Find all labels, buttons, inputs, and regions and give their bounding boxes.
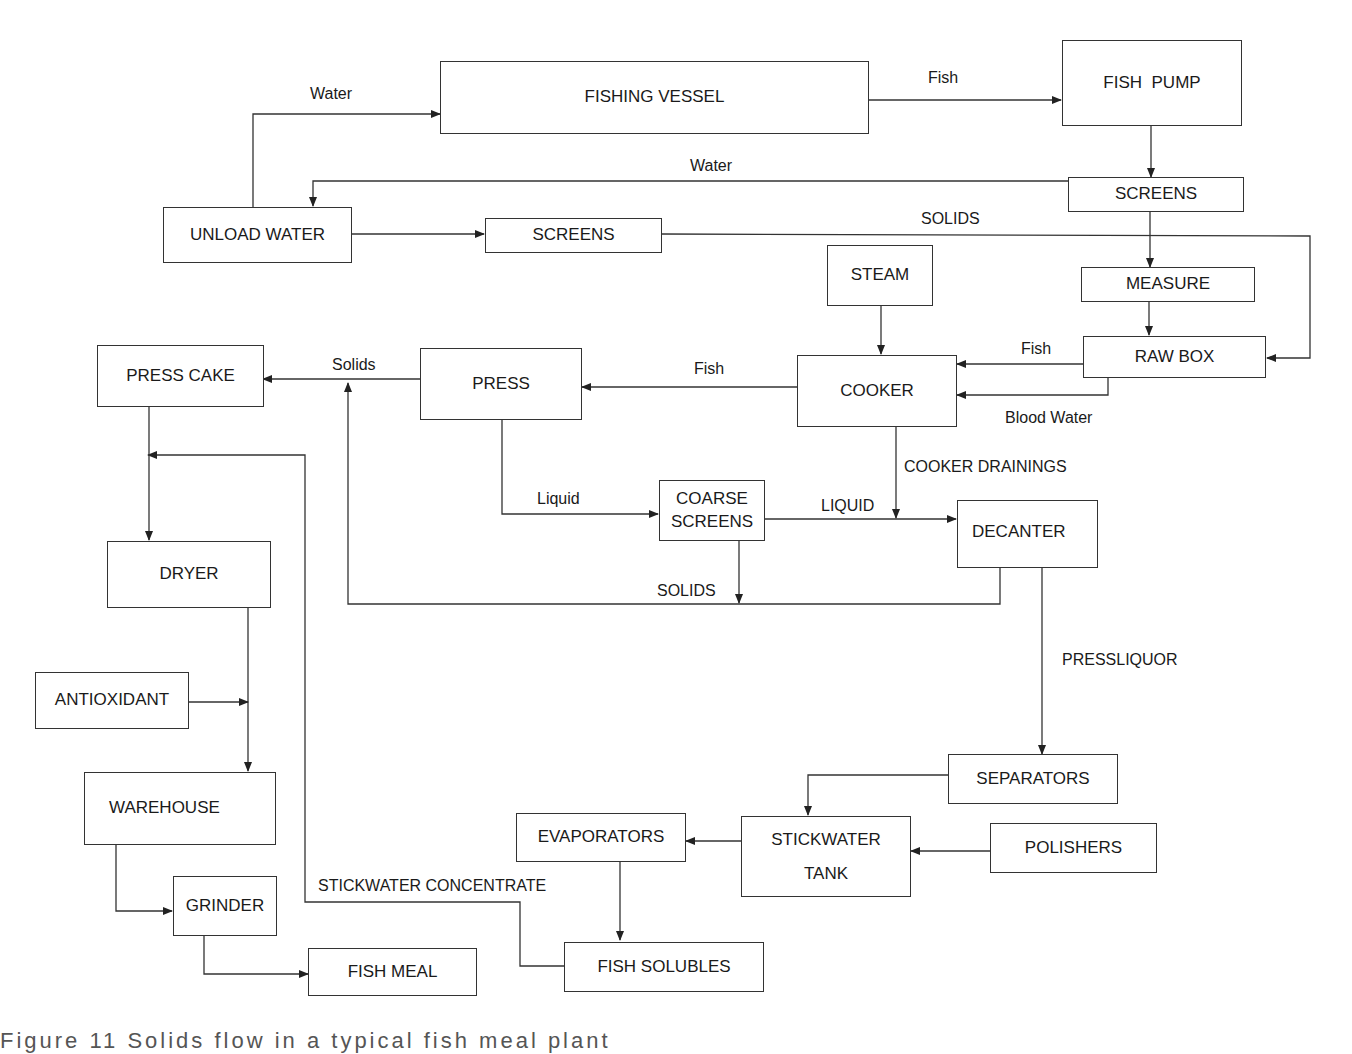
edge-label-solids-to-rawbox: SOLIDS bbox=[921, 210, 980, 228]
edge-label-fish-to-pump: Fish bbox=[928, 69, 958, 87]
node-label: SCREENS bbox=[532, 224, 614, 247]
edge-label-water-to-unload: Water bbox=[690, 157, 732, 175]
node-decanter: DECANTER bbox=[957, 500, 1098, 568]
node-label-line1: STICKWATER bbox=[771, 823, 881, 857]
edge-label-solids-press-cake: Solids bbox=[332, 356, 376, 374]
node-label: PRESS bbox=[472, 373, 530, 396]
node-label: PRESS CAKE bbox=[126, 365, 235, 388]
node-label: FISH SOLUBLES bbox=[597, 956, 730, 979]
node-measure: MEASURE bbox=[1081, 267, 1255, 302]
node-label: SCREENS bbox=[1115, 183, 1197, 206]
edge-label-fish-rawbox-cooker: Fish bbox=[1021, 340, 1051, 358]
edge-label-liquid-press: Liquid bbox=[537, 490, 580, 508]
node-cooker: COOKER bbox=[797, 355, 957, 427]
node-coarse-screens: COARSE SCREENS bbox=[659, 480, 765, 541]
node-fishing-vessel: FISHING VESSEL bbox=[440, 61, 869, 134]
edge-label-blood-water: Blood Water bbox=[1005, 409, 1092, 427]
node-label: GRINDER bbox=[186, 895, 264, 918]
edge-label-stickwater-concentrate: STICKWATER CONCENTRATE bbox=[318, 877, 546, 895]
edge-label-liquid-coarse: LIQUID bbox=[821, 497, 874, 515]
node-screens-mid: SCREENS bbox=[485, 218, 662, 253]
node-separators: SEPARATORS bbox=[948, 754, 1118, 804]
edge-label-fish-cooker-press: Fish bbox=[694, 360, 724, 378]
node-grinder: GRINDER bbox=[173, 876, 277, 936]
node-label: DRYER bbox=[159, 563, 218, 586]
node-label: MEASURE bbox=[1126, 273, 1210, 296]
node-antioxidant: ANTIOXIDANT bbox=[35, 672, 189, 729]
node-label: DECANTER bbox=[972, 521, 1066, 544]
node-fish-pump: FISH PUMP bbox=[1062, 40, 1242, 126]
node-label: FISH MEAL bbox=[348, 961, 438, 984]
node-label: SEPARATORS bbox=[976, 768, 1089, 791]
node-label: ANTIOXIDANT bbox=[55, 689, 169, 712]
node-unload-water: UNLOAD WATER bbox=[163, 207, 352, 263]
node-warehouse: WAREHOUSE bbox=[84, 772, 276, 845]
node-label-line2: TANK bbox=[804, 857, 848, 891]
edge-label-pressliquor: PRESSLIQUOR bbox=[1062, 651, 1178, 669]
figure-caption: Figure 11 Solids flow in a typical fish … bbox=[0, 1028, 611, 1054]
node-steam: STEAM bbox=[827, 245, 933, 306]
node-press-cake: PRESS CAKE bbox=[97, 345, 264, 407]
node-label: FISHING VESSEL bbox=[585, 86, 725, 109]
node-label: FISH PUMP bbox=[1103, 72, 1200, 95]
node-label: UNLOAD WATER bbox=[190, 224, 325, 247]
node-fish-solubles: FISH SOLUBLES bbox=[564, 942, 764, 992]
node-label: STEAM bbox=[851, 264, 910, 287]
node-press: PRESS bbox=[420, 348, 582, 420]
node-label: RAW BOX bbox=[1135, 346, 1215, 369]
node-dryer: DRYER bbox=[107, 541, 271, 608]
node-label: EVAPORATORS bbox=[538, 826, 665, 849]
node-label-line1: COARSE bbox=[676, 488, 748, 511]
node-fish-meal: FISH MEAL bbox=[308, 948, 477, 996]
node-screens-top: SCREENS bbox=[1068, 177, 1244, 212]
node-evaporators: EVAPORATORS bbox=[516, 813, 686, 862]
node-label: COOKER bbox=[840, 380, 914, 403]
node-raw-box: RAW BOX bbox=[1083, 336, 1266, 378]
edge-label-water-to-vessel: Water bbox=[310, 85, 352, 103]
edge-label-solids-coarse: SOLIDS bbox=[657, 582, 716, 600]
node-label: POLISHERS bbox=[1025, 837, 1122, 860]
edge-label-cooker-drainings: COOKER DRAININGS bbox=[904, 458, 1067, 476]
node-stickwater-tank: STICKWATER TANK bbox=[741, 816, 911, 897]
node-label: WAREHOUSE bbox=[109, 797, 220, 820]
node-polishers: POLISHERS bbox=[990, 823, 1157, 873]
node-label-line2: SCREENS bbox=[671, 511, 753, 534]
